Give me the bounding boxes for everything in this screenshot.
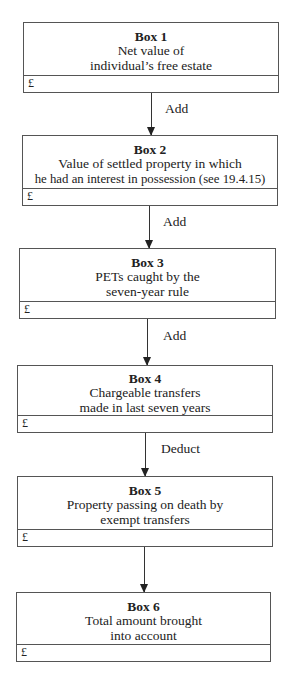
box-6-line-1: Total amount brought: [17, 614, 270, 629]
box-2-amount-field: £: [23, 188, 277, 205]
box-5-amount-field: £: [18, 529, 272, 546]
arrow-down-icon: [151, 93, 152, 135]
box-4-amount-field: £: [18, 415, 272, 432]
box-2-line-1: Value of settled property in which: [23, 157, 277, 172]
box-5: Box 5 Property passing on death by exemp…: [17, 476, 273, 547]
arrow-down-icon: [144, 547, 145, 592]
box-4: Box 4 Chargeable transfers made in last …: [17, 365, 273, 433]
box-1-line-2: individual’s free estate: [24, 59, 278, 74]
box-5-line-2: exempt transfers: [18, 513, 272, 528]
arrow-down-icon: [145, 433, 146, 476]
box-1-amount-field: £: [24, 75, 278, 92]
box-2-body: Box 2 Value of settled property in which…: [23, 136, 277, 186]
operation-label-2: Add: [163, 214, 186, 230]
arrow-down-icon: [147, 319, 148, 365]
box-4-body: Box 4 Chargeable transfers made in last …: [18, 366, 272, 415]
box-4-line-2: made in last seven years: [18, 401, 272, 416]
arrow-down-icon: [149, 206, 150, 248]
box-4-title: Box 4: [18, 371, 272, 386]
box-3-body: Box 3 PETs caught by the seven-year rule: [20, 249, 275, 299]
box-3-line-1: PETs caught by the: [20, 270, 275, 285]
box-6: Box 6 Total amount brought into account …: [16, 592, 271, 662]
operation-label-3: Add: [163, 328, 186, 344]
operation-label-1: Add: [165, 101, 188, 117]
box-3-amount-field: £: [20, 301, 275, 318]
box-3-line-2: seven-year rule: [20, 285, 275, 300]
box-6-line-2: into account: [17, 629, 270, 644]
box-5-title: Box 5: [18, 483, 272, 498]
box-1-line-1: Net value of: [24, 44, 278, 59]
box-2-line-2: he had an interest in possession (see 19…: [23, 172, 277, 187]
box-4-line-1: Chargeable transfers: [18, 386, 272, 401]
box-3: Box 3 PETs caught by the seven-year rule…: [19, 248, 276, 319]
operation-label-4: Deduct: [161, 441, 200, 457]
box-1-title: Box 1: [24, 29, 278, 44]
box-5-body: Box 5 Property passing on death by exemp…: [18, 477, 272, 527]
box-2-title: Box 2: [23, 142, 277, 157]
box-1-body: Box 1 Net value of individual’s free est…: [24, 23, 278, 73]
box-3-title: Box 3: [20, 255, 275, 270]
box-2: Box 2 Value of settled property in which…: [22, 135, 278, 206]
box-5-line-1: Property passing on death by: [18, 498, 272, 513]
box-6-title: Box 6: [17, 599, 270, 614]
box-1: Box 1 Net value of individual’s free est…: [23, 22, 279, 93]
box-6-body: Box 6 Total amount brought into account: [17, 593, 270, 643]
box-6-amount-field: £: [17, 644, 270, 661]
